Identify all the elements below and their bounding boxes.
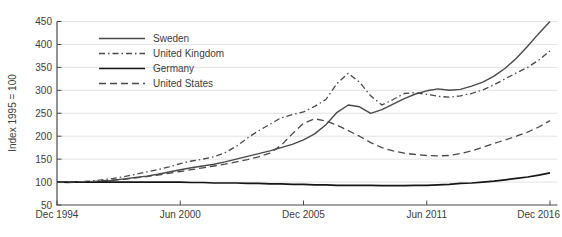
y-tick-label-250: 250: [35, 108, 52, 119]
legend-item-sweden: Sweden: [99, 31, 189, 46]
plot-area: 50100150200250300350400450Dec 1994Jun 20…: [0, 0, 562, 237]
x-tick-label-3: Jun 2011: [407, 209, 448, 220]
legend-line-sample-germany: [99, 64, 145, 73]
y-axis-title: Index 1995 = 100: [7, 62, 21, 164]
legend-label-germany: Germany: [153, 61, 194, 76]
series-line-united-states: [57, 119, 550, 182]
house-price-index-chart: 50100150200250300350400450Dec 1994Jun 20…: [0, 0, 562, 237]
y-tick-label-200: 200: [35, 131, 52, 142]
y-tick-label-150: 150: [35, 154, 52, 165]
x-tick-label-1: Jun 2000: [160, 209, 202, 220]
legend-line-sample-sweden: [99, 34, 145, 43]
x-tick-label-4: Dec 2016: [517, 209, 560, 220]
legend-line-sample-united-states: [99, 79, 145, 88]
legend-line-sample-united-kingdom: [99, 49, 145, 58]
legend-item-germany: Germany: [99, 61, 194, 76]
x-tick-label-0: Dec 1994: [36, 209, 79, 220]
legend-label-united-kingdom: United Kingdom: [153, 46, 224, 61]
y-tick-label-400: 400: [35, 39, 52, 50]
y-tick-label-300: 300: [35, 85, 52, 96]
legend-label-united-states: United States: [153, 76, 213, 91]
series-line-germany: [57, 173, 550, 186]
legend-label-sweden: Sweden: [153, 31, 189, 46]
y-tick-label-450: 450: [35, 16, 52, 27]
x-tick-label-2: Dec 2005: [282, 209, 325, 220]
legend-item-united-kingdom: United Kingdom: [99, 46, 224, 61]
y-tick-label-350: 350: [35, 62, 52, 73]
legend-item-united-states: United States: [99, 76, 213, 91]
y-tick-label-100: 100: [35, 177, 52, 188]
